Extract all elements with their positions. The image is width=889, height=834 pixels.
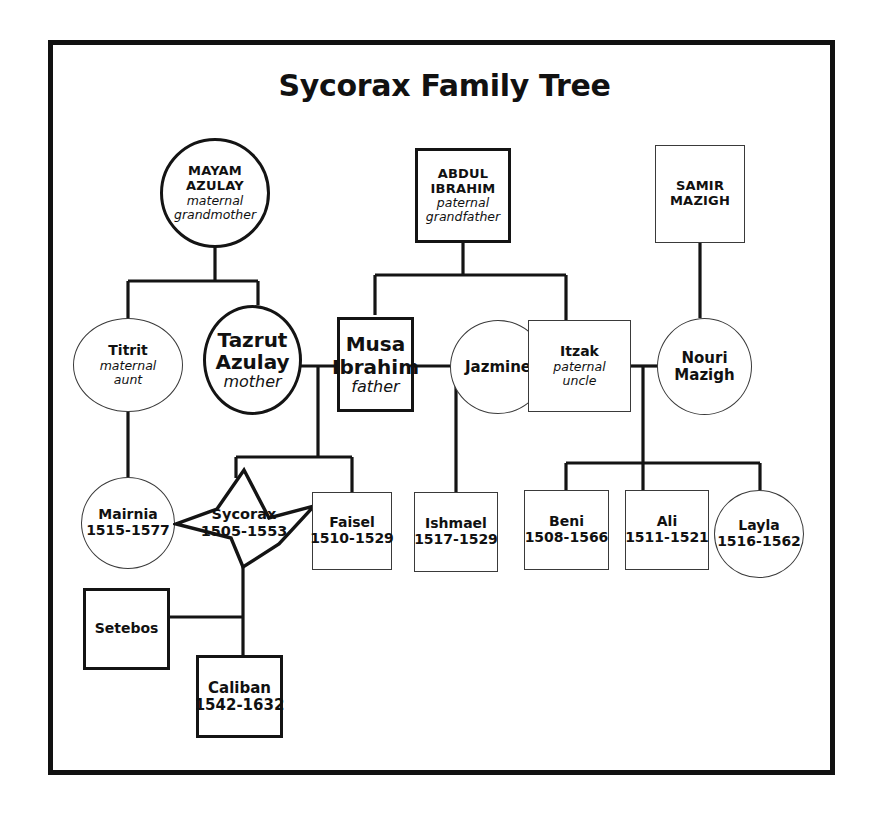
node-sycorax-text: Sycorax 1505-1553 xyxy=(201,506,288,539)
node-mayam-name-line2: AZULAY xyxy=(186,179,244,194)
node-beni-name: Beni xyxy=(549,514,584,530)
node-titrit-relation-line1: maternal xyxy=(100,359,157,373)
node-mairnia-dates: 1515-1577 xyxy=(86,523,170,539)
node-itzak-name: Itzak xyxy=(560,344,599,360)
node-mayam-relation-line1: maternal xyxy=(187,194,244,208)
node-setebos[interactable]: Setebos xyxy=(83,588,170,670)
node-sycorax-dates: 1505-1553 xyxy=(201,523,288,540)
node-musa-name-line2: Ibrahim xyxy=(332,356,419,378)
node-itzak[interactable]: Itzak paternal uncle xyxy=(528,320,631,412)
node-ishmael-dates: 1517-1529 xyxy=(414,532,498,548)
node-tazrut-name-line1: Tazrut xyxy=(218,329,288,351)
node-itzak-relation-line1: paternal xyxy=(553,360,605,374)
node-layla-name: Layla xyxy=(738,518,779,534)
node-mayam-name-line1: MAYAM xyxy=(188,164,242,179)
node-faisel-dates: 1510-1529 xyxy=(310,531,394,547)
node-caliban-dates: 1542-1632 xyxy=(195,697,285,714)
node-tazrut-azulay[interactable]: Tazrut Azulay mother xyxy=(203,305,302,415)
node-itzak-relation-line2: uncle xyxy=(563,374,597,388)
node-nouri-name-line1: Nouri xyxy=(681,350,727,367)
node-musa-relation: father xyxy=(351,378,399,396)
node-mairnia-name: Mairnia xyxy=(98,507,157,523)
connector-lines xyxy=(0,0,889,834)
node-titrit-relation-line2: aunt xyxy=(114,373,142,387)
node-layla-dates: 1516-1562 xyxy=(717,534,801,550)
node-musa-name-line1: Musa xyxy=(346,333,406,355)
node-samir-mazigh[interactable]: SAMIR MAZIGH xyxy=(655,145,745,243)
node-samir-name-line1: SAMIR xyxy=(676,179,724,194)
node-ali[interactable]: Ali 1511-1521 xyxy=(625,490,709,570)
node-caliban-name: Caliban xyxy=(208,680,271,697)
node-tazrut-name-line2: Azulay xyxy=(215,351,289,373)
node-titrit[interactable]: Titrit maternal aunt xyxy=(73,318,183,412)
node-mairnia[interactable]: Mairnia 1515-1577 xyxy=(81,477,175,569)
node-mayam-relation-line2: grandmother xyxy=(174,208,256,222)
node-ishmael-name: Ishmael xyxy=(425,516,487,532)
node-faisel-name: Faisel xyxy=(329,515,375,531)
page-title: Sycorax Family Tree xyxy=(0,68,889,103)
node-abdul-ibrahim[interactable]: ABDUL IBRAHIM paternal grandfather xyxy=(415,148,511,243)
node-setebos-name: Setebos xyxy=(95,621,159,637)
node-titrit-name: Titrit xyxy=(108,343,147,359)
node-ishmael[interactable]: Ishmael 1517-1529 xyxy=(414,492,498,572)
node-beni[interactable]: Beni 1508-1566 xyxy=(524,490,609,570)
node-nouri-name-line2: Mazigh xyxy=(674,367,734,384)
node-tazrut-relation: mother xyxy=(223,373,281,391)
node-abdul-relation-line1: paternal xyxy=(437,196,489,210)
node-faisel[interactable]: Faisel 1510-1529 xyxy=(312,492,392,570)
node-ali-name: Ali xyxy=(657,514,677,530)
node-jazmine-name: Jazmine xyxy=(465,359,531,376)
node-sycorax[interactable]: Sycorax 1505-1553 xyxy=(173,466,315,571)
node-abdul-name-line2: IBRAHIM xyxy=(431,182,496,197)
node-layla[interactable]: Layla 1516-1562 xyxy=(714,490,804,578)
node-beni-dates: 1508-1566 xyxy=(525,530,609,546)
diagram-canvas: Sycorax Family Tree MAYAM AZULAY materna… xyxy=(0,0,889,834)
node-abdul-relation-line2: grandfather xyxy=(426,210,500,224)
node-sycorax-name: Sycorax xyxy=(201,506,288,523)
node-caliban[interactable]: Caliban 1542-1632 xyxy=(196,655,283,738)
node-nouri-mazigh[interactable]: Nouri Mazigh xyxy=(657,318,752,415)
node-mayam-azulay[interactable]: MAYAM AZULAY maternal grandmother xyxy=(160,138,270,248)
node-samir-name-line2: MAZIGH xyxy=(670,194,730,209)
node-ali-dates: 1511-1521 xyxy=(625,530,709,546)
node-abdul-name-line1: ABDUL xyxy=(438,167,489,182)
node-musa-ibrahim[interactable]: Musa Ibrahim father xyxy=(337,317,414,412)
